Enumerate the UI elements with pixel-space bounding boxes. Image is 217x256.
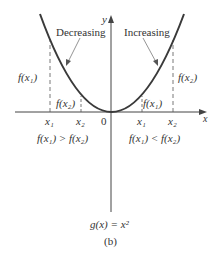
y-axis-label: y <box>102 14 107 25</box>
left-f-x1-label: f(x₁) <box>18 72 37 83</box>
increasing-arrowhead-icon <box>153 59 158 66</box>
left-f-x2-label: f(x₂) <box>56 98 75 109</box>
decreasing-arrowhead-icon <box>66 59 71 66</box>
y-axis-arrow-icon <box>108 15 114 23</box>
right-f-x2-label: f(x₂) <box>178 72 197 83</box>
decreasing-pointer <box>68 38 80 62</box>
x-axis-label: x <box>203 114 207 124</box>
right-relation: f(x₁) < f(x₂) <box>129 133 180 144</box>
left-x1-tick: x₁ <box>45 116 54 127</box>
right-x1-tick: x₁ <box>137 116 146 127</box>
function-label: g(x) = x² <box>90 219 129 230</box>
left-relation: f(x₁) > f(x₂) <box>37 133 88 144</box>
right-f-x1-label: f(x₁) <box>143 98 162 109</box>
decreasing-label: Decreasing <box>56 27 105 38</box>
origin-label: 0 <box>101 116 107 127</box>
left-x2-tick: x₂ <box>76 116 85 127</box>
increasing-pointer <box>143 38 156 62</box>
subfigure-label: (b) <box>104 236 117 247</box>
increasing-label: Increasing <box>124 27 170 38</box>
right-x2-tick: x₂ <box>168 116 177 127</box>
